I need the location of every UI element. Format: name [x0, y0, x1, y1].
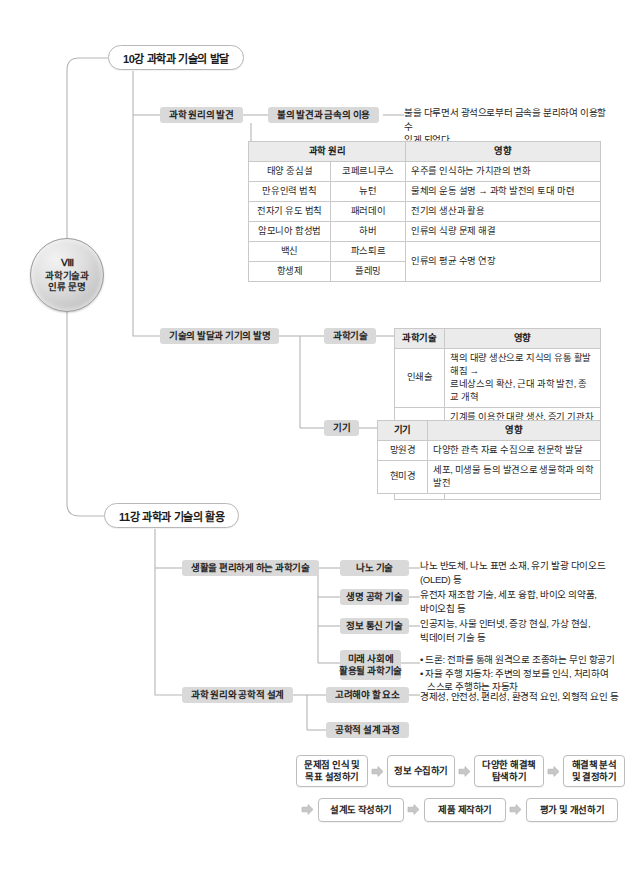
- table-row: 만유인력 법칙 뉴턴 물체의 운동 설명 → 과학 발전의 토대 마련: [249, 181, 601, 201]
- arrow-right-icon: [371, 765, 384, 778]
- table-row: 전자기 유도 법칙 패러데이 전기의 생산과 활용: [249, 201, 601, 221]
- cell-device-name: 현미경: [378, 460, 428, 493]
- flow-step-2-line1: 정보 수집하기: [394, 765, 447, 777]
- nano-description: 나노 반도체, 나노 표면 소재, 유기 발광 다이오드 (OLED) 등: [420, 559, 625, 586]
- future-label-line2: 활용될 과학기술: [339, 665, 401, 677]
- flow-step-7-line1: 평가 및 개선하기: [540, 804, 604, 816]
- future-description: • 드론: 전파를 통해 원격으로 조종하는 무인 항공기 • 자율 주행 자동…: [420, 653, 630, 694]
- cell-principle-effect: 전기의 생산과 활용: [406, 201, 601, 221]
- flow-step-6[interactable]: 제품 제작하기: [424, 798, 506, 822]
- ict-description: 인공지능, 사물 인터넷, 증강 현실, 가상 현실, 빅데이터 기술 등: [420, 617, 625, 644]
- mindmap-canvas: Ⅷ 과학기술과 인류 문명 10강 과학과 기술의 발달 11강 과학과 기술의…: [0, 0, 633, 876]
- cell-principle-effect: 물체의 운동 설명 → 과학 발전의 토대 마련: [406, 181, 601, 201]
- branch-fire-and-metal[interactable]: 불의 발견과 금속의 이용: [268, 107, 379, 123]
- table-row: 인쇄술 책의 대량 생산으로 지식의 유통 활발해짐 → 르네상스의 확산, 근…: [395, 348, 601, 407]
- cell-principle-person: 코페르니쿠스: [331, 161, 406, 181]
- cell-principle-name: 백신: [249, 241, 331, 261]
- table-row: 백신 파스퇴르 인류의 평균 수명 연장: [249, 241, 601, 261]
- cell-principle-person: 뉴턴: [331, 181, 406, 201]
- branch-factors-to-consider[interactable]: 고려해야 할 요소: [326, 687, 409, 703]
- table-row: 현미경 세포, 미생물 등의 발견으로 생물학과 의학 발전: [378, 460, 601, 493]
- flow-step-5-line1: 설계도 작성하기: [330, 804, 392, 816]
- cell-tech-effect: 책의 대량 생산으로 지식의 유통 활발해짐 → 르네상스의 확산, 근대 과학…: [445, 348, 601, 407]
- table-header-principle: 과학 원리: [249, 142, 406, 162]
- cell-device-effect: 세포, 미생물 등의 발견으로 생물학과 의학 발전: [428, 460, 601, 493]
- table-header-row: 과학기술 영향: [395, 329, 601, 349]
- arrow-right-icon: [458, 765, 471, 778]
- table-header-row: 기기 영향: [378, 421, 601, 441]
- cell-principle-name: 만유인력 법칙: [249, 181, 331, 201]
- arrow-right-icon: [547, 765, 560, 778]
- root-node[interactable]: Ⅷ 과학기술과 인류 문명: [30, 238, 104, 312]
- chapter-node-11[interactable]: 11강 과학과 기술의 활용: [104, 503, 239, 528]
- branch-devices[interactable]: 기기: [324, 420, 359, 436]
- cell-principle-person: 파스퇴르: [331, 241, 406, 261]
- branch-engineering-design-process[interactable]: 공학적 설계 과정: [326, 722, 409, 738]
- arrow-right-icon: [301, 803, 314, 816]
- root-roman-numeral: Ⅷ: [61, 257, 74, 269]
- branch-convenient-life-technology[interactable]: 생활을 편리하게 하는 과학기술: [182, 560, 319, 576]
- table-science-principles: 과학 원리 영향 태양 중심설 코페르니쿠스 우주를 인식하는 가치관의 변화 …: [248, 141, 601, 282]
- factors-description: 경제성, 안전성, 편리성, 환경적 요인, 외형적 요인 등: [420, 690, 630, 704]
- cell-principle-person: 플레밍: [331, 261, 406, 281]
- cell-principle-person: 패러데이: [331, 201, 406, 221]
- future-bullet-autonomous: • 자율 주행 자동차: 주변의 정보를 인식, 처리하여: [420, 667, 630, 681]
- biotechnology-description: 유전자 재조합 기술, 세포 융합, 바이오 의약품, 바이오칩 등: [420, 588, 625, 615]
- cell-principle-person: 하버: [331, 221, 406, 241]
- flow-step-3-line1: 다양한 해결책: [482, 759, 535, 771]
- table-row: 암모니아 합성법 하버 인류의 식량 문제 해결: [249, 221, 601, 241]
- branch-biotechnology[interactable]: 생명 공학 기술: [340, 589, 409, 605]
- cell-principle-effect: 우주를 인식하는 가치관의 변화: [406, 161, 601, 181]
- cell-principle-name: 태양 중심설: [249, 161, 331, 181]
- flow-step-4-line1: 해결책 분석: [572, 759, 617, 771]
- cell-principle-effect-merged: 인류의 평균 수명 연장: [406, 241, 601, 281]
- branch-future-society-technology[interactable]: 미래 사회에 활용될 과학기술: [340, 650, 401, 680]
- table-header-effect: 영향: [445, 329, 601, 349]
- flow-step-1-line1: 문제점 인식 및: [304, 759, 360, 771]
- root-title-line1: 과학기술과: [45, 270, 89, 282]
- flow-step-3[interactable]: 다양한 해결책 탐색하기: [474, 755, 544, 787]
- flow-step-6-line1: 제품 제작하기: [438, 804, 491, 816]
- flow-step-4-line2: 및 결정하기: [572, 771, 617, 783]
- cell-principle-name: 항생제: [249, 261, 331, 281]
- table-header-device: 기기: [378, 421, 428, 441]
- table-row: 망원경 다양한 관측 자료 수집으로 천문학 발달: [378, 440, 601, 460]
- branch-discovery-of-principles[interactable]: 과학 원리의 발견: [160, 107, 243, 123]
- flow-step-2[interactable]: 정보 수집하기: [387, 755, 455, 787]
- flow-step-1[interactable]: 문제점 인식 및 목표 설정하기: [296, 755, 368, 787]
- cell-principle-name: 암모니아 합성법: [249, 221, 331, 241]
- branch-technology-development[interactable]: 기술의 발달과 기기의 발명: [160, 328, 279, 344]
- cell-tech-name: 인쇄술: [395, 348, 445, 407]
- root-title-line2: 인류 문명: [48, 281, 85, 293]
- flow-step-7[interactable]: 평가 및 개선하기: [526, 798, 618, 822]
- future-bullet-drone: • 드론: 전파를 통해 원격으로 조종하는 무인 항공기: [420, 653, 630, 667]
- table-header-row: 과학 원리 영향: [249, 142, 601, 162]
- branch-principles-and-engineering-design[interactable]: 과학 원리와 공학적 설계: [182, 687, 293, 703]
- flow-step-1-line2: 목표 설정하기: [305, 771, 358, 783]
- cell-device-name: 망원경: [378, 440, 428, 460]
- table-row: 태양 중심설 코페르니쿠스 우주를 인식하는 가치관의 변화: [249, 161, 601, 181]
- branch-ict[interactable]: 정보 통신 기술: [340, 618, 409, 634]
- flow-step-4[interactable]: 해결책 분석 및 결정하기: [563, 755, 625, 787]
- cell-principle-effect: 인류의 식량 문제 해결: [406, 221, 601, 241]
- table-header-tech: 과학기술: [395, 329, 445, 349]
- future-label-line1: 미래 사회에: [348, 653, 393, 665]
- arrow-right-icon: [407, 803, 420, 816]
- table-header-effect: 영향: [406, 142, 601, 162]
- cell-device-effect: 다양한 관측 자료 수집으로 천문학 발달: [428, 440, 601, 460]
- chapter-node-10[interactable]: 10강 과학과 기술의 발달: [108, 45, 244, 70]
- arrow-right-icon: [509, 803, 522, 816]
- flow-step-3-line2: 탐색하기: [492, 771, 526, 783]
- table-devices: 기기 영향 망원경 다양한 관측 자료 수집으로 천문학 발달 현미경 세포, …: [377, 420, 601, 494]
- branch-science-technology[interactable]: 과학기술: [324, 328, 376, 344]
- table-header-effect: 영향: [428, 421, 601, 441]
- flow-step-5[interactable]: 설계도 작성하기: [318, 798, 404, 822]
- cell-principle-name: 전자기 유도 법칙: [249, 201, 331, 221]
- branch-nano-technology[interactable]: 나노 기술: [340, 560, 409, 576]
